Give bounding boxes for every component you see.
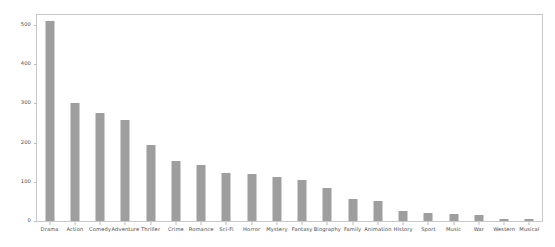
- bar[interactable]: [348, 199, 357, 221]
- x-axis-tick: Romance: [189, 222, 214, 246]
- x-axis-tick-label: Comedy: [89, 226, 111, 232]
- x-axis-tick: Western: [492, 222, 517, 246]
- bar[interactable]: [70, 103, 79, 221]
- bar-slot: [214, 15, 239, 221]
- y-axis: 0100200300400500: [0, 14, 36, 222]
- x-axis-tick-mark: [100, 222, 101, 225]
- bar[interactable]: [96, 113, 105, 221]
- bar[interactable]: [298, 180, 307, 221]
- x-axis-tick-mark: [327, 222, 328, 225]
- x-axis-tick-mark: [302, 222, 303, 225]
- x-axis-tick-label: Horror: [243, 226, 260, 232]
- x-axis-tick-mark: [428, 222, 429, 225]
- x-axis-tick-label: Western: [493, 226, 515, 232]
- bars-layer: [37, 15, 542, 221]
- x-axis-tick-label: Musical: [519, 226, 539, 232]
- x-axis-tick: Action: [62, 222, 87, 246]
- bar-chart-figure: 0100200300400500 DramaActionComedyAdvent…: [0, 0, 555, 247]
- x-axis-tick-label: Family: [344, 226, 361, 232]
- x-axis-tick-mark: [352, 222, 353, 225]
- y-axis-tick-label: 0: [28, 217, 31, 223]
- bar[interactable]: [500, 219, 509, 221]
- y-axis-tick-mark: [34, 103, 37, 104]
- bar[interactable]: [222, 173, 231, 221]
- x-axis-tick-label: Action: [66, 226, 83, 232]
- x-axis-tick-label: Fantasy: [292, 226, 313, 232]
- x-axis-tick: Family: [340, 222, 365, 246]
- bar[interactable]: [474, 215, 483, 221]
- bar[interactable]: [323, 188, 332, 221]
- x-axis-tick: Thriller: [138, 222, 163, 246]
- x-axis-tick-mark: [377, 222, 378, 225]
- x-axis-tick-label: Biography: [314, 226, 341, 232]
- y-axis-tick-mark: [34, 25, 37, 26]
- bar-slot: [492, 15, 517, 221]
- bar[interactable]: [146, 145, 155, 222]
- bar[interactable]: [45, 21, 54, 221]
- x-axis-tick-label: Thriller: [141, 226, 160, 232]
- y-axis-tick-mark: [34, 143, 37, 144]
- x-axis-tick: Biography: [315, 222, 340, 246]
- x-axis-tick-label: Music: [446, 226, 461, 232]
- y-axis-tick-label: 200: [21, 139, 31, 145]
- x-axis-tick: War: [466, 222, 491, 246]
- bar[interactable]: [272, 177, 281, 221]
- bar-slot: [264, 15, 289, 221]
- bar-slot: [37, 15, 62, 221]
- bar[interactable]: [247, 174, 256, 221]
- x-axis-tick: Drama: [37, 222, 62, 246]
- x-axis-tick-mark: [453, 222, 454, 225]
- y-axis-tick-mark: [34, 182, 37, 183]
- bar-slot: [340, 15, 365, 221]
- bar[interactable]: [399, 211, 408, 221]
- bar[interactable]: [424, 213, 433, 221]
- bar-slot: [315, 15, 340, 221]
- y-axis-tick-label: 500: [21, 21, 31, 27]
- x-axis-tick-label: War: [474, 226, 484, 232]
- bar-slot: [239, 15, 264, 221]
- x-axis-tick-mark: [150, 222, 151, 225]
- bar-slot: [189, 15, 214, 221]
- x-axis-tick: History: [391, 222, 416, 246]
- bar-slot: [62, 15, 87, 221]
- bar-slot: [88, 15, 113, 221]
- bar[interactable]: [373, 201, 382, 221]
- x-axis-tick: Horror: [239, 222, 264, 246]
- x-axis-tick-mark: [74, 222, 75, 225]
- y-axis-tick-mark: [34, 221, 37, 222]
- x-axis-tick-label: Mystery: [266, 226, 287, 232]
- y-axis-tick-label: 100: [21, 178, 31, 184]
- y-axis-tick-mark: [34, 64, 37, 65]
- bar[interactable]: [197, 165, 206, 221]
- x-axis-tick-mark: [403, 222, 404, 225]
- x-axis-tick: Sport: [416, 222, 441, 246]
- x-axis-tick: Animation: [365, 222, 390, 246]
- bar[interactable]: [171, 161, 180, 221]
- x-axis-tick-label: Drama: [41, 226, 59, 232]
- bar[interactable]: [525, 219, 534, 221]
- x-axis-tick: Musical: [517, 222, 542, 246]
- bar-slot: [290, 15, 315, 221]
- x-axis-tick-mark: [276, 222, 277, 225]
- y-axis-tick-label: 300: [21, 99, 31, 105]
- x-axis-tick-mark: [175, 222, 176, 225]
- x-axis-tick: Adventure: [113, 222, 138, 246]
- bar[interactable]: [121, 120, 130, 221]
- x-axis-tick: Music: [441, 222, 466, 246]
- x-axis-tick-mark: [478, 222, 479, 225]
- x-axis-tick-mark: [201, 222, 202, 225]
- x-axis-tick-label: Adventure: [112, 226, 140, 232]
- bar-slot: [466, 15, 491, 221]
- x-axis-tick: Crime: [163, 222, 188, 246]
- bar[interactable]: [449, 214, 458, 221]
- x-axis-tick-label: History: [394, 226, 413, 232]
- x-axis-tick-mark: [226, 222, 227, 225]
- x-axis-tick: Mystery: [264, 222, 289, 246]
- x-axis-tick-mark: [251, 222, 252, 225]
- bar-slot: [365, 15, 390, 221]
- bar-slot: [441, 15, 466, 221]
- y-axis-tick-label: 400: [21, 60, 31, 66]
- bar-slot: [416, 15, 441, 221]
- x-axis-tick-label: Animation: [364, 226, 391, 232]
- x-axis-tick-label: Sport: [421, 226, 435, 232]
